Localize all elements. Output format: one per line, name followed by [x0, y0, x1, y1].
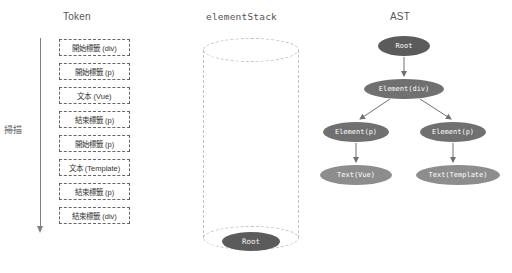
token-item: 開始標籤 (p) [59, 135, 130, 152]
scan-direction-label: 掃描 [4, 123, 22, 136]
element-stack-cylinder [203, 38, 299, 250]
ast-tree: Root Element(div) Element(p) Element(p) … [320, 0, 512, 273]
element-stack-column-title: elementStack [206, 11, 277, 22]
ast-node-element-div: Element(div) [364, 79, 444, 99]
stack-item-root: Root [222, 232, 280, 251]
ast-edge [420, 99, 451, 119]
token-item: 結束標籤 (p) [59, 111, 130, 128]
scan-axis-line [40, 38, 41, 228]
token-item: 文本 (Template) [59, 159, 130, 176]
cylinder-top-ellipse [203, 38, 299, 62]
cylinder-right-edge [298, 50, 299, 238]
ast-node-text-vue: Text(Vue) [320, 165, 392, 185]
cylinder-left-edge [203, 50, 204, 238]
ast-node-element-p-left: Element(p) [323, 122, 389, 142]
token-item: 開始標籤 (div) [59, 39, 130, 56]
ast-edge-layer [320, 0, 512, 220]
token-column-title: Token [63, 11, 91, 22]
token-item: 結束標籤 (div) [59, 207, 130, 224]
token-item: 開始標籤 (p) [59, 63, 130, 80]
ast-node-text-template: Text(Template) [416, 165, 500, 185]
token-list: 開始標籤 (div) 開始標籤 (p) 文本 (Vue) 結束標籤 (p) 開始… [59, 39, 130, 231]
ast-node-root: Root [378, 36, 430, 56]
token-item: 結束標籤 (p) [59, 183, 130, 200]
ast-node-element-p-right: Element(p) [420, 122, 486, 142]
diagram-canvas: Token elementStack AST 掃描 開始標籤 (div) 開始標… [0, 0, 512, 273]
token-item: 文本 (Vue) [59, 87, 130, 104]
down-arrow-icon [37, 226, 43, 233]
ast-edge [360, 99, 390, 119]
